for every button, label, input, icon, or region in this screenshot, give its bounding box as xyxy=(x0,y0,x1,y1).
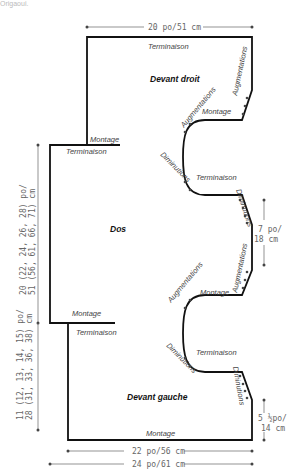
dimension-armhole: 7 po/ 18 cm xyxy=(254,199,282,267)
svg-text:7 po/: 7 po/ xyxy=(258,225,282,234)
svg-text:20 (22, 24, 26, 28) po/: 20 (22, 24, 26, 28) po/ xyxy=(19,184,28,295)
svg-text:28 (31, 33, 36, 38) cm: 28 (31, 33, 36, 38) cm xyxy=(25,314,34,420)
svg-text:22 po/56 cm: 22 po/56 cm xyxy=(132,447,185,456)
label-diminutions-lower-neck: Diminutions xyxy=(165,341,199,375)
knitting-schematic: Devant droit Dos Devant gauche Terminais… xyxy=(0,0,298,469)
svg-text:20 po/51 cm: 20 po/51 cm xyxy=(148,23,201,32)
label-terminaison-back: Terminaison xyxy=(66,147,107,156)
dimension-bottom-outer: 24 po/61 cm xyxy=(49,460,254,469)
label-montage-back: Montage xyxy=(72,309,101,318)
label-diminutions-upper-neck: Diminutions xyxy=(159,150,193,184)
label-terminaison-upper-neck: Terminaison xyxy=(196,173,237,182)
label-terminaison-left-front: Terminaison xyxy=(76,328,117,337)
dimension-lower-side: 5 ½po/ 14 cm xyxy=(258,399,287,442)
svg-text:11 (12, 13, 14, 15) po/: 11 (12, 13, 14, 15) po/ xyxy=(16,309,25,420)
dimension-back-length: 20 (22, 24, 26, 28) po/ 51 (56, 61, 66, … xyxy=(19,144,40,325)
title-right-front: Devant droit xyxy=(150,74,201,84)
label-montage-upper-neck: Montage xyxy=(202,107,231,116)
garment-outline xyxy=(50,37,252,440)
label-terminaison-top: Terminaison xyxy=(148,42,189,51)
label-augmentations-upper-right: Augmentations xyxy=(230,45,249,97)
title-left-front: Devant gauche xyxy=(127,392,188,402)
label-augmentations-mid-right: Augmentations xyxy=(230,242,249,294)
label-montage-lower-neck: Montage xyxy=(200,288,229,297)
svg-text:51 (56, 61, 66, 71) cm: 51 (56, 61, 66, 71) cm xyxy=(28,189,37,295)
svg-text:14 cm: 14 cm xyxy=(261,424,285,433)
label-augmentations-lower-neck: Augmentations xyxy=(165,260,205,305)
label-montage-bottom: Montage xyxy=(146,429,175,438)
svg-text:24 po/61 cm: 24 po/61 cm xyxy=(132,460,185,469)
label-terminaison-lower-neck: Terminaison xyxy=(196,348,237,357)
label-montage-right-front: Montage xyxy=(90,135,119,144)
dimension-bottom-inner: 22 po/56 cm xyxy=(67,447,254,456)
svg-text:18 cm: 18 cm xyxy=(254,235,278,244)
dimension-front-length: 11 (12, 13, 14, 15) po/ 28 (31, 33, 36, … xyxy=(16,309,40,431)
label-diminutions-mid-right: Diminutions xyxy=(234,188,255,228)
svg-text:5 ½po/: 5 ½po/ xyxy=(258,413,287,423)
dimension-top-width: 20 po/51 cm xyxy=(86,23,254,32)
label-diminutions-lower-right: Diminutions xyxy=(231,366,247,406)
title-back: Dos xyxy=(110,224,126,234)
